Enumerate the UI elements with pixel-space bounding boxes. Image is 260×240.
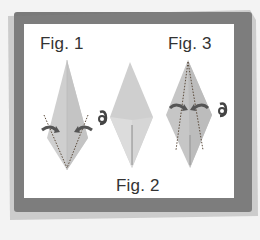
fig-2-label: Fig. 2: [116, 176, 160, 196]
fig-1-label: Fig. 1: [40, 34, 84, 54]
fig-3-label: Fig. 3: [168, 34, 212, 54]
